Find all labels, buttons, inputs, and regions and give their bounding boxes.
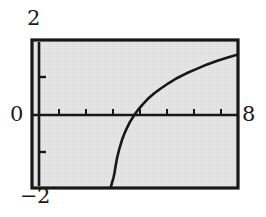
figure-container: 2 −2 0 8 xyxy=(0,0,266,217)
y-axis-min-label: −2 xyxy=(20,186,50,207)
x-axis-min-label: 0 xyxy=(10,104,23,125)
y-axis-max-label: 2 xyxy=(27,8,40,29)
x-axis-max-label: 8 xyxy=(242,104,255,125)
